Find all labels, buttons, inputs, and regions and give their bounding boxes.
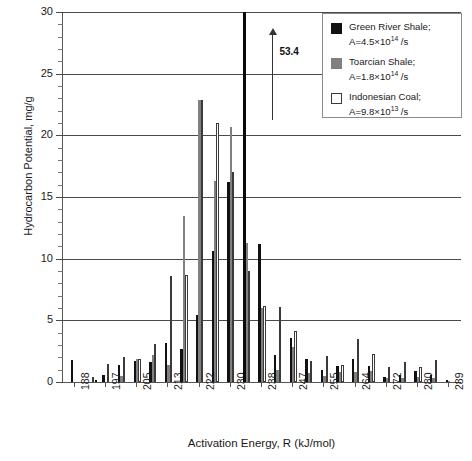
legend-label-indonesian-coal: Indonesian Coal; A=9.8×1013 /s — [349, 91, 421, 117]
bar — [435, 360, 437, 382]
x-tick-label: 205 — [141, 372, 153, 390]
y-tick-minor — [58, 37, 63, 38]
x-tick — [448, 383, 449, 387]
y-tick-major — [56, 197, 63, 198]
legend-swatch-green-river-shale — [331, 23, 342, 34]
y-tick-minor — [58, 24, 63, 25]
bar — [341, 365, 343, 382]
chart-root: Hydrocarbon Potential, mg/g 53.4 0510152… — [0, 0, 472, 461]
y-tick-minor — [58, 185, 63, 186]
y-tick-minor — [58, 333, 63, 334]
y-tick-minor — [58, 123, 63, 124]
gridline — [63, 197, 461, 198]
gridline — [63, 259, 461, 260]
y-tick-label: 25 — [11, 67, 53, 79]
x-tick-label: 188 — [79, 372, 91, 390]
y-tick-major — [56, 259, 63, 260]
bar — [201, 100, 203, 382]
chart-legend: Green River Shale; A=4.5×1014 /s Toarcia… — [322, 13, 462, 118]
y-tick-major — [56, 74, 63, 75]
x-tick — [230, 383, 231, 387]
y-tick-minor — [58, 98, 63, 99]
x-tick-label: 280 — [422, 372, 434, 390]
x-tick-label: 289 — [453, 372, 465, 390]
bar-overflow — [243, 12, 246, 382]
x-tick-label: 213 — [172, 372, 184, 390]
x-tick-label: 264 — [360, 372, 372, 390]
x-tick — [261, 383, 262, 387]
legend-item: Toarcian Shale; A=1.8×1014 /s — [331, 56, 455, 82]
legend-label-toarcian-shale: Toarcian Shale; A=1.8×1014 /s — [349, 56, 415, 82]
x-tick-label: 247 — [297, 372, 309, 390]
y-tick-minor — [58, 296, 63, 297]
y-tick-minor — [58, 222, 63, 223]
y-tick-minor — [58, 271, 63, 272]
x-tick-label: 238 — [266, 372, 278, 390]
bar — [372, 354, 374, 382]
y-tick-label: 15 — [11, 190, 53, 202]
overflow-arrowhead-icon — [269, 28, 277, 35]
x-tick-label: 272 — [391, 372, 403, 390]
y-tick-minor — [58, 111, 63, 112]
bar — [154, 344, 156, 382]
x-tick — [386, 383, 387, 387]
bar — [404, 362, 406, 382]
bar — [263, 306, 265, 382]
gridline — [63, 135, 461, 136]
y-tick-minor — [58, 86, 63, 87]
legend-item: Green River Shale; A=4.5×1014 /s — [331, 21, 455, 47]
y-axis-title: Hydrocarbon Potential, mg/g — [22, 66, 34, 266]
x-tick — [199, 383, 200, 387]
bar — [216, 123, 218, 382]
y-tick-major — [56, 382, 63, 383]
y-tick-major — [56, 135, 63, 136]
x-tick — [417, 383, 418, 387]
y-tick-label: 0 — [11, 375, 53, 387]
legend-swatch-toarcian-shale — [331, 58, 342, 69]
bar — [448, 381, 450, 382]
x-tick-label: 255 — [328, 372, 340, 390]
y-tick-minor — [58, 148, 63, 149]
x-tick — [355, 383, 356, 387]
y-tick-minor — [58, 357, 63, 358]
bar — [102, 375, 104, 382]
y-tick-major — [56, 12, 63, 13]
x-tick — [323, 383, 324, 387]
bar — [71, 360, 73, 382]
bar — [279, 307, 281, 382]
y-tick-minor — [58, 160, 63, 161]
y-tick-minor — [58, 246, 63, 247]
y-tick-label: 30 — [11, 5, 53, 17]
y-tick-minor — [58, 172, 63, 173]
y-tick-minor — [58, 308, 63, 309]
bar — [170, 276, 172, 382]
x-tick — [167, 383, 168, 387]
y-tick-label: 10 — [11, 252, 53, 264]
y-tick-minor — [58, 345, 63, 346]
y-tick-major — [56, 320, 63, 321]
y-tick-minor — [58, 49, 63, 50]
x-tick — [74, 383, 75, 387]
legend-item: Indonesian Coal; A=9.8×1013 /s — [331, 91, 455, 117]
bar — [248, 271, 250, 382]
bar — [92, 377, 94, 382]
overflow-arrow-icon — [272, 34, 273, 120]
legend-label-green-river-shale: Green River Shale; A=4.5×1014 /s — [349, 21, 431, 47]
y-tick-minor — [58, 234, 63, 235]
x-tick-label: 197 — [110, 372, 122, 390]
y-tick-minor — [58, 370, 63, 371]
bar — [232, 172, 234, 382]
x-tick — [136, 383, 137, 387]
y-tick-minor — [58, 283, 63, 284]
x-tick-label: 222 — [204, 372, 216, 390]
y-tick-label: 20 — [11, 128, 53, 140]
bar — [310, 361, 312, 382]
x-tick — [105, 383, 106, 387]
x-tick — [292, 383, 293, 387]
y-tick-label: 5 — [11, 313, 53, 325]
x-axis-title: Activation Energy, R (kJ/mol) — [62, 437, 461, 449]
bar — [95, 380, 97, 382]
bar — [185, 275, 187, 382]
bar — [123, 357, 125, 382]
y-tick-minor — [58, 61, 63, 62]
